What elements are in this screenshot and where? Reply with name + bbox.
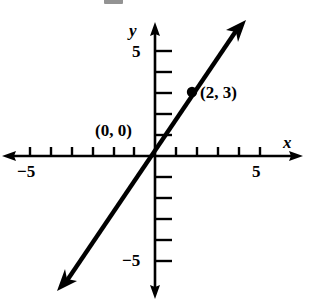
origin-point-annotation: (0, 0) xyxy=(95,122,132,139)
y-axis-tick-label-negative-5: −5 xyxy=(122,252,140,269)
x-axis-label: x xyxy=(283,134,292,151)
x-axis-tick-label-negative-5: −5 xyxy=(17,163,35,180)
x-axis-tick-label-5: 5 xyxy=(252,163,261,180)
point-annotation-2-3: (2, 3) xyxy=(200,84,237,101)
data-point-marker-2-3 xyxy=(187,87,197,97)
graph-canvas xyxy=(0,0,309,301)
y-axis xyxy=(150,22,160,299)
coordinate-plane-figure: y x 5 −5 −5 5 (0, 0) (2, 3) xyxy=(0,0,309,301)
y-axis-label: y xyxy=(129,22,137,39)
y-axis-tick-label-5: 5 xyxy=(132,43,141,60)
